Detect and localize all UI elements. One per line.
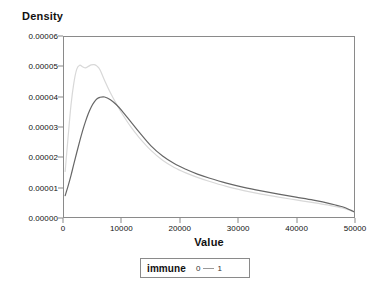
x-tick-label: 40000 xyxy=(285,224,308,233)
x-tick-mark xyxy=(179,218,180,223)
x-tick-mark xyxy=(238,218,239,223)
x-tick-mark xyxy=(355,218,356,223)
density-curve-1 xyxy=(65,97,354,212)
x-tick-label: 50000 xyxy=(344,224,367,233)
density-curves xyxy=(64,37,354,217)
legend-item-label-0: 0 xyxy=(196,264,200,273)
density-curve-0 xyxy=(65,65,354,212)
density-chart: Density 0.000000.000010.000020.000030.00… xyxy=(0,0,376,289)
x-tick-mark xyxy=(296,218,297,223)
legend-title: immune xyxy=(147,263,186,274)
x-axis-title: Value xyxy=(63,236,355,248)
x-tick-label: 20000 xyxy=(168,224,191,233)
x-tick-label: 0 xyxy=(61,224,66,233)
legend: immune 01 xyxy=(140,258,250,278)
plot-area xyxy=(63,36,355,218)
x-tick-mark xyxy=(63,218,64,223)
x-tick-label: 10000 xyxy=(110,224,133,233)
x-tick-mark xyxy=(121,218,122,223)
legend-entries: 01 xyxy=(196,264,222,273)
x-tick-label: 30000 xyxy=(227,224,250,233)
legend-item-label-1: 1 xyxy=(217,264,221,273)
legend-line-sample xyxy=(203,268,214,269)
